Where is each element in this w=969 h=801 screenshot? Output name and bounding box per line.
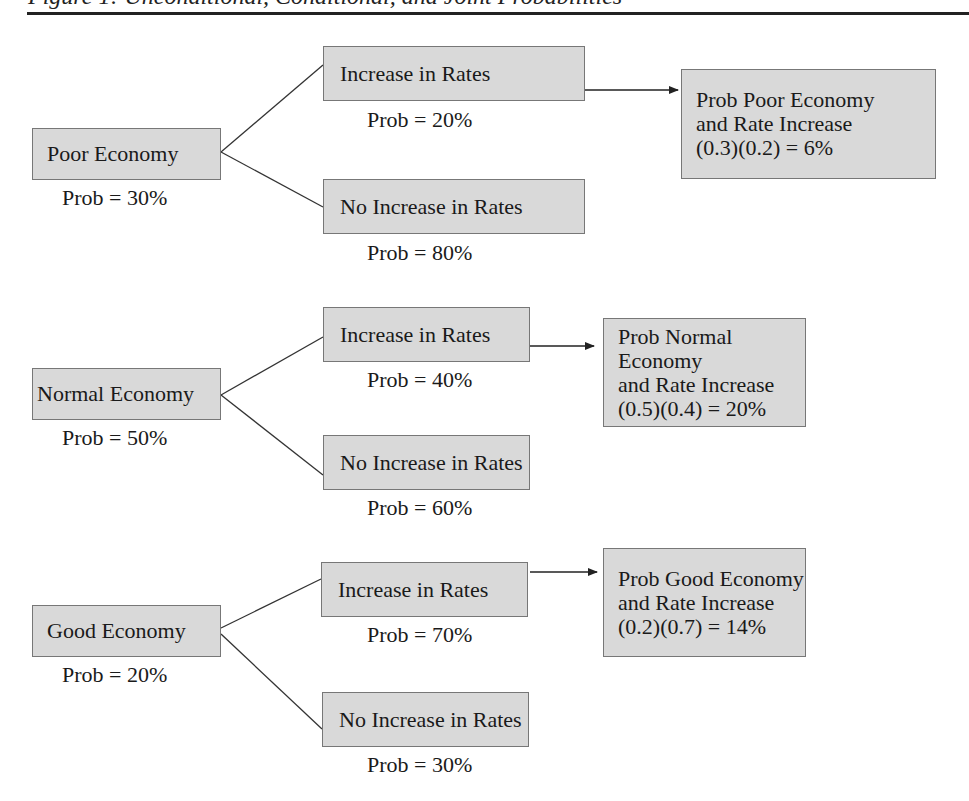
joint-line-3: (0.3)(0.2) = 6% — [696, 136, 833, 160]
node-joint-poor: Prob Poor Economy and Rate Increase (0.3… — [681, 69, 936, 179]
joint-line-2: and Rate Increase — [618, 591, 774, 615]
prob-poor-economy: Prob = 30% — [62, 185, 167, 211]
node-normal-increase: Increase in Rates — [323, 307, 530, 362]
node-label: Good Economy — [47, 618, 186, 644]
node-label: Increase in Rates — [338, 577, 488, 603]
prob-normal-no-increase: Prob = 60% — [367, 495, 472, 521]
prob-good-economy: Prob = 20% — [62, 662, 167, 688]
joint-line-2: and Rate Increase — [696, 112, 852, 136]
node-good-no-increase: No Increase in Rates — [322, 692, 529, 747]
branch-line-normal-no-increase — [221, 395, 323, 475]
branch-line-good-no-increase — [221, 634, 322, 729]
prob-poor-no-increase: Prob = 80% — [367, 240, 472, 266]
node-label: No Increase in Rates — [340, 194, 523, 220]
prob-normal-economy: Prob = 50% — [62, 425, 167, 451]
node-label: Increase in Rates — [340, 322, 490, 348]
branch-line-poor-no-increase — [221, 152, 323, 207]
node-label: Increase in Rates — [340, 61, 490, 87]
node-poor-economy: Poor Economy — [32, 128, 221, 180]
prob-normal-increase: Prob = 40% — [367, 367, 472, 393]
prob-good-increase: Prob = 70% — [367, 622, 472, 648]
joint-line-3: (0.2)(0.7) = 14% — [618, 615, 766, 639]
node-label: No Increase in Rates — [339, 707, 522, 733]
node-poor-no-increase: No Increase in Rates — [323, 179, 585, 234]
node-poor-increase: Increase in Rates — [323, 46, 585, 101]
prob-poor-increase: Prob = 20% — [367, 107, 472, 133]
joint-line-1: Prob Poor Economy — [696, 88, 874, 112]
node-good-economy: Good Economy — [32, 605, 221, 657]
joint-line-1: Prob Normal Economy — [618, 325, 805, 373]
joint-line-1: Prob Good Economy — [618, 567, 804, 591]
prob-good-no-increase: Prob = 30% — [367, 752, 472, 778]
node-label: Normal Economy — [37, 381, 194, 407]
branch-line-good-increase — [221, 579, 321, 628]
node-joint-normal: Prob Normal Economy and Rate Increase (0… — [603, 318, 806, 427]
branch-line-normal-increase — [221, 337, 323, 395]
node-good-increase: Increase in Rates — [321, 562, 528, 617]
node-label: Poor Economy — [47, 141, 178, 167]
joint-line-2: and Rate Increase — [618, 373, 774, 397]
branch-line-poor-increase — [221, 65, 323, 152]
joint-line-3: (0.5)(0.4) = 20% — [618, 397, 766, 421]
node-joint-good: Prob Good Economy and Rate Increase (0.2… — [603, 548, 806, 657]
node-label: No Increase in Rates — [340, 450, 523, 476]
node-normal-no-increase: No Increase in Rates — [323, 435, 530, 490]
node-normal-economy: Normal Economy — [32, 368, 221, 420]
